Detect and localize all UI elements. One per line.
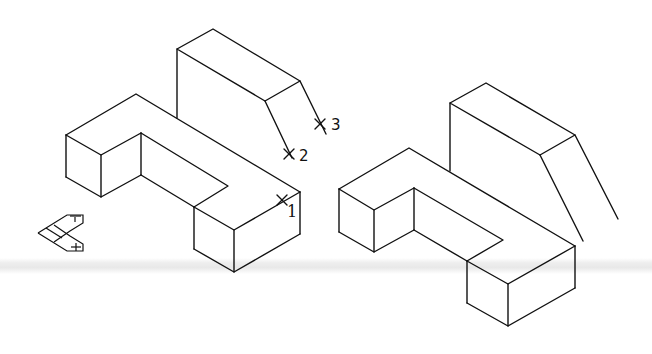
left-drawing: 1 2 3: [66, 29, 341, 272]
right-incline-edge: [540, 155, 583, 241]
left-edge: [66, 175, 141, 197]
ucs-icon: [38, 215, 83, 251]
marker-label-3: 3: [331, 116, 341, 134]
left-base-left-block: [66, 133, 141, 155]
right-front-box-bottom: [467, 288, 575, 326]
left-upright-top: [177, 29, 300, 101]
left-front-box-bottom: [194, 234, 300, 272]
left-incline-edge: [265, 101, 292, 158]
left-edge: [141, 175, 194, 207]
right-edge: [339, 230, 414, 252]
right-notch: [414, 188, 503, 261]
right-edge: [414, 230, 467, 261]
marker-label-2: 2: [299, 147, 309, 165]
right-incline-edge: [575, 135, 618, 219]
left-notch: [141, 133, 228, 207]
right-upright-top: [450, 83, 575, 155]
right-base-left-block: [339, 188, 414, 210]
right-drawing: [339, 83, 618, 326]
marker-label-1: 1: [287, 202, 297, 221]
drawing-canvas: 1 2 3: [0, 0, 652, 354]
